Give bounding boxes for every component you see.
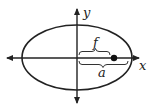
ellipse-diagram: y x f a <box>0 0 150 109</box>
semi-major-axis-label: a <box>98 65 106 80</box>
x-axis-label: x <box>139 58 147 73</box>
y-axis-label: y <box>82 5 91 20</box>
focus-point <box>111 55 117 61</box>
focal-distance-label: f <box>92 35 100 50</box>
